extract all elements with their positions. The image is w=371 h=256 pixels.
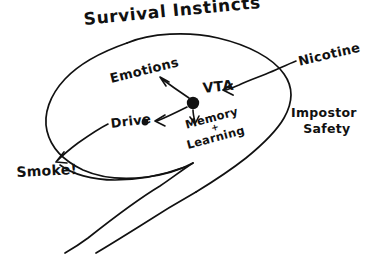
sketch-diagram-canvas: Survival Instincts Emotions VTA Nicotine… <box>0 0 371 256</box>
impostor-safety-line-2: Safety <box>291 121 357 137</box>
edge-hub-to-emotions <box>162 79 189 98</box>
edge-drive-to-smoke <box>58 124 108 160</box>
outcome-label-smoke: Smoke! <box>16 162 78 180</box>
bubble-tail-lower-stroke <box>96 192 196 253</box>
impostor-safety-line-1: Impostor <box>291 105 357 120</box>
external-label-impostor-safety: Impostor Safety <box>291 105 357 136</box>
edge-hub-to-drive <box>157 107 187 121</box>
node-label-vta: VTA <box>202 78 234 96</box>
